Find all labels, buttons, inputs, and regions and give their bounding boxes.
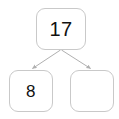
connector-parent-to-left (33, 50, 61, 69)
number-bond-diagram: 17 8 (0, 0, 119, 119)
whole-node-value: 17 (49, 19, 72, 39)
part-node-left-value: 8 (26, 83, 36, 100)
part-node-right[interactable] (70, 70, 114, 112)
part-node-left[interactable]: 8 (9, 70, 53, 112)
whole-node[interactable]: 17 (36, 8, 86, 50)
connector-parent-to-right (62, 50, 91, 69)
